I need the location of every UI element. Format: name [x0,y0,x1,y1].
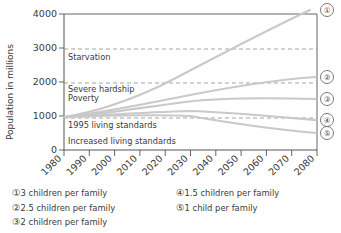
y-tick-marks [59,14,64,150]
x-tick-2080: 2080 [292,153,317,178]
band-label-starvation: Starvation [68,52,110,62]
y-tick-1000: 1000 [33,110,57,121]
y-axis-title: Population in millions [5,44,15,140]
legend-item-2: ②2.5 children per family [12,201,115,216]
legend-label-5: 1 child per family [185,203,258,213]
band-labels: Starvation Severe hardship Poverty 1995 … [68,52,176,146]
x-tick-2070: 2070 [266,153,291,178]
legend-marker-1: ① [12,186,21,201]
legend-item-1: ①3 children per family [12,186,115,201]
x-tick-marks [64,150,317,156]
legend-marker-3: ③ [12,215,21,230]
y-tick-labels: 4000 3000 2000 1000 0 [33,8,57,155]
legend-column-right: ④1.5 children per family ⑤1 child per fa… [176,186,279,215]
series-lines [65,10,317,133]
x-tick-labels: 1980 1990 2000 2010 2020 2030 2040 2050 … [39,153,317,178]
legend-item-5: ⑤1 child per family [176,201,279,216]
x-tick-2010: 2010 [114,153,139,178]
legend-item-4: ④1.5 children per family [176,186,279,201]
x-tick-2060: 2060 [241,153,266,178]
legend-column-left: ①3 children per family ②2.5 children per… [12,186,115,230]
x-tick-2000: 2000 [89,153,114,178]
y-tick-3000: 3000 [33,42,57,53]
x-tick-2020: 2020 [140,153,165,178]
legend-item-3: ③2 children per family [12,215,115,230]
y-tick-4000: 4000 [33,8,57,19]
endpoint-markers: ① ② ③ ④ ⑤ [321,4,334,140]
endpoint-marker-2-label: ② [324,73,331,82]
legend-label-3: 2 children per family [21,217,108,227]
population-projection-figure: Population in millions 4000 3000 2000 10… [0,0,341,233]
endpoint-marker-1-label: ① [324,6,331,15]
x-tick-1990: 1990 [64,153,89,178]
legend-marker-4: ④ [176,186,185,201]
legend-label-2: 2.5 children per family [21,203,116,213]
x-tick-2030: 2030 [165,153,190,178]
endpoint-marker-3-label: ③ [324,95,331,104]
band-label-1995-living-standards: 1995 living standards [68,120,157,130]
x-tick-2040: 2040 [190,153,215,178]
legend-label-1: 3 children per family [21,188,108,198]
y-tick-2000: 2000 [33,76,57,87]
band-label-increased-living-standards: Increased living standards [68,136,176,146]
legend-marker-5: ⑤ [176,201,185,216]
x-tick-2050: 2050 [216,153,241,178]
x-tick-1980: 1980 [39,153,64,178]
legend-label-4: 1.5 children per family [185,188,280,198]
band-label-poverty: Poverty [68,93,99,103]
endpoint-marker-4-label: ④ [324,116,331,125]
endpoint-marker-5-label: ⑤ [324,129,331,138]
legend-marker-2: ② [12,201,21,216]
